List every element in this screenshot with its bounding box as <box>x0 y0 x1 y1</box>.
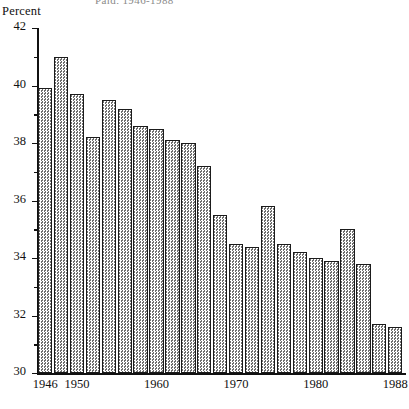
tick-mark <box>34 344 38 345</box>
tick-mark <box>32 28 38 29</box>
y-tick-label: 38 <box>14 134 27 149</box>
x-tick-label: 1988 <box>383 377 408 392</box>
bar <box>293 252 307 373</box>
x-axis-line <box>37 373 406 375</box>
bar-chart: Paid, 1946-1988 Percent 30323436384042 1… <box>0 0 409 409</box>
y-tick-label: 34 <box>14 249 27 264</box>
bar <box>324 261 338 373</box>
y-axis-unit-label: Percent <box>2 4 41 19</box>
bar <box>261 206 275 373</box>
bar <box>277 244 291 373</box>
tick-mark <box>32 86 38 87</box>
bar <box>356 264 370 373</box>
bar <box>213 215 227 373</box>
y-tick-label: 40 <box>14 77 27 92</box>
y-tick-label: 30 <box>14 364 27 379</box>
bar <box>149 129 163 373</box>
tick-mark <box>32 143 38 144</box>
x-tick-label: 1960 <box>144 377 169 392</box>
bar <box>229 244 243 373</box>
tick-mark <box>34 287 38 288</box>
bar <box>165 140 179 373</box>
tick-mark <box>34 229 38 230</box>
bar <box>245 247 259 374</box>
x-tick-label: 1946 <box>33 377 58 392</box>
x-tick-label: 1950 <box>64 377 89 392</box>
plot-area <box>38 28 406 373</box>
tick-mark <box>34 114 38 115</box>
bar <box>70 94 84 373</box>
y-tick-label: 42 <box>14 19 27 34</box>
bar <box>86 137 100 373</box>
bar <box>133 126 147 373</box>
bar <box>118 109 132 374</box>
tick-mark <box>32 373 38 374</box>
x-tick-label: 1970 <box>224 377 249 392</box>
x-tick-label: 1980 <box>303 377 328 392</box>
bar <box>372 324 386 373</box>
bar-series <box>38 28 406 373</box>
tick-mark <box>34 172 38 173</box>
bar <box>340 229 354 373</box>
bar <box>38 88 52 373</box>
y-tick-label: 36 <box>14 192 27 207</box>
bar <box>102 100 116 373</box>
bar <box>54 57 68 373</box>
chart-title: Paid, 1946-1988 <box>95 0 295 4</box>
bar <box>181 143 195 373</box>
tick-mark <box>32 316 38 317</box>
tick-mark <box>34 57 38 58</box>
bar <box>309 258 323 373</box>
tick-mark <box>32 201 38 202</box>
bar <box>388 327 402 373</box>
bar <box>197 166 211 373</box>
y-tick-label: 32 <box>14 307 27 322</box>
tick-mark <box>32 258 38 259</box>
